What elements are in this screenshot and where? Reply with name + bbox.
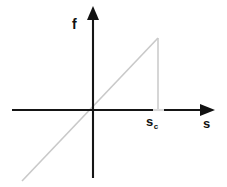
critical-point-label: sc — [146, 115, 158, 128]
plot-svg — [0, 0, 227, 187]
figure-canvas: f s sc — [0, 0, 227, 187]
critical-point-subscript: c — [154, 122, 158, 131]
critical-point-symbol: s — [146, 114, 153, 129]
x-axis-arrowhead-icon — [200, 104, 215, 116]
y-axis-arrowhead-icon — [87, 6, 99, 20]
x-axis-group — [12, 104, 215, 116]
y-axis-label: f — [72, 17, 77, 31]
x-axis-label: s — [203, 117, 210, 130]
y-axis-group — [87, 6, 99, 178]
